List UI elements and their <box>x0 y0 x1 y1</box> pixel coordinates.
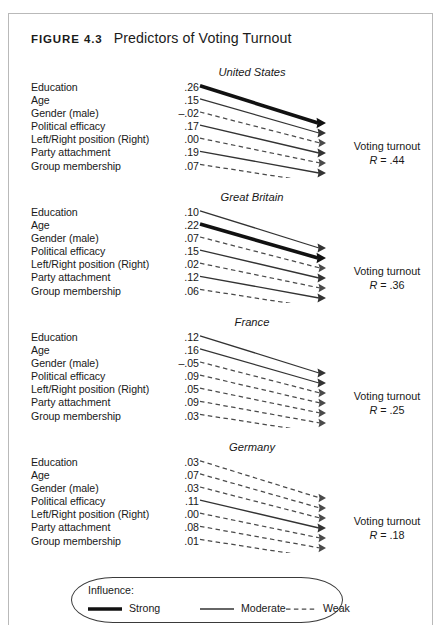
arrowhead <box>319 264 327 273</box>
arrow-weak <box>200 461 326 503</box>
outcome-name: Voting turnout <box>337 515 437 529</box>
arrowhead <box>318 378 327 387</box>
arrow-moderate <box>200 211 326 253</box>
arrowhead <box>319 409 327 418</box>
arrowhead <box>318 273 327 282</box>
r-equals-value: = .18 <box>377 529 404 541</box>
arrowhead <box>318 368 327 377</box>
page-title: Figure 4.3Predictors of Voting Turnout <box>31 29 292 47</box>
arrowhead <box>318 128 327 137</box>
arrowhead <box>319 514 327 523</box>
figure-frame: Figure 4.3Predictors of Voting Turnout U… <box>8 13 433 625</box>
r-equals-value: = .36 <box>377 279 404 291</box>
arrowhead <box>318 523 327 532</box>
legend-item-strong: Strong <box>88 602 160 615</box>
legend-label: Weak <box>323 602 350 614</box>
legend-item-weak: Weak <box>286 602 350 615</box>
arrow-moderate <box>200 336 326 378</box>
arrow-moderate <box>200 349 326 388</box>
outcome-r-value: R = .44 <box>337 154 437 168</box>
r-equals-value: = .44 <box>377 154 404 166</box>
legend-items: StrongModerateWeak <box>72 602 344 622</box>
legend-sample-strong <box>88 603 122 615</box>
arrow-weak <box>200 474 326 512</box>
arrow-strong <box>200 86 326 128</box>
arrowhead <box>318 243 327 252</box>
arrowhead <box>319 494 327 503</box>
outcome-label: Voting turnoutR = .36 <box>337 265 437 292</box>
figure-number: Figure 4.3 <box>31 33 103 45</box>
outcome-r-value: R = .36 <box>337 279 437 293</box>
outcome-r-value: R = .25 <box>337 404 437 418</box>
outcome-label: Voting turnoutR = .44 <box>337 140 437 167</box>
arrowhead <box>319 504 327 513</box>
arrowhead <box>319 399 327 408</box>
arrow-strong <box>200 224 326 263</box>
arrowhead <box>319 284 327 293</box>
outcome-r-value: R = .18 <box>337 529 437 543</box>
figure-caption: Predictors of Voting Turnout <box>114 30 292 46</box>
legend-label: Moderate <box>241 602 286 614</box>
arrowhead <box>318 168 327 177</box>
arrowhead <box>317 253 327 263</box>
arrowhead <box>319 419 327 428</box>
arrowhead <box>318 148 327 157</box>
outcome-name: Voting turnout <box>337 390 437 404</box>
legend: Influence: StrongModerateWeak <box>71 577 343 623</box>
r-equals-value: = .25 <box>377 404 404 416</box>
legend-sample-moderate <box>200 603 234 615</box>
arrow-weak <box>200 526 326 552</box>
outcome-label: Voting turnoutR = .18 <box>337 515 437 542</box>
legend-title: Influence: <box>88 584 134 596</box>
legend-sample-weak <box>286 603 316 615</box>
outcome-name: Voting turnout <box>337 140 437 154</box>
arrowhead <box>319 159 327 168</box>
arrowhead <box>319 389 327 398</box>
arrowhead <box>319 544 327 553</box>
arrowhead <box>318 293 327 302</box>
arrow-weak <box>200 401 326 427</box>
legend-item-moderate: Moderate <box>200 602 286 615</box>
arrow-weak <box>200 414 326 428</box>
arrow-weak <box>200 539 326 553</box>
arrowhead <box>319 534 327 543</box>
outcome-label: Voting turnoutR = .25 <box>337 390 437 417</box>
legend-label: Strong <box>129 602 160 614</box>
outcome-name: Voting turnout <box>337 265 437 279</box>
arrowhead <box>319 139 327 148</box>
arrowhead <box>317 118 327 128</box>
